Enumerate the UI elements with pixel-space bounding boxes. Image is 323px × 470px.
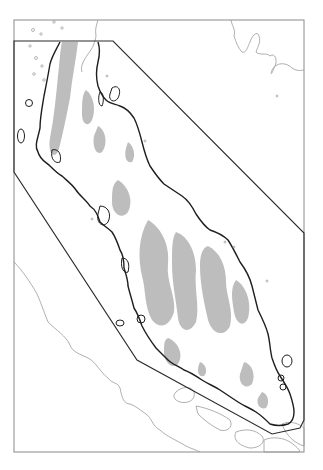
peninsula-coastline — [36, 42, 294, 426]
north-peninsula-coast — [81, 20, 98, 72]
peninsula-map — [0, 0, 323, 470]
highland-areas — [49, 42, 268, 408]
gulf-coast-north — [231, 20, 304, 74]
east-coast-islands — [99, 87, 292, 390]
map-container — [0, 0, 323, 470]
riau-islands — [174, 388, 304, 453]
